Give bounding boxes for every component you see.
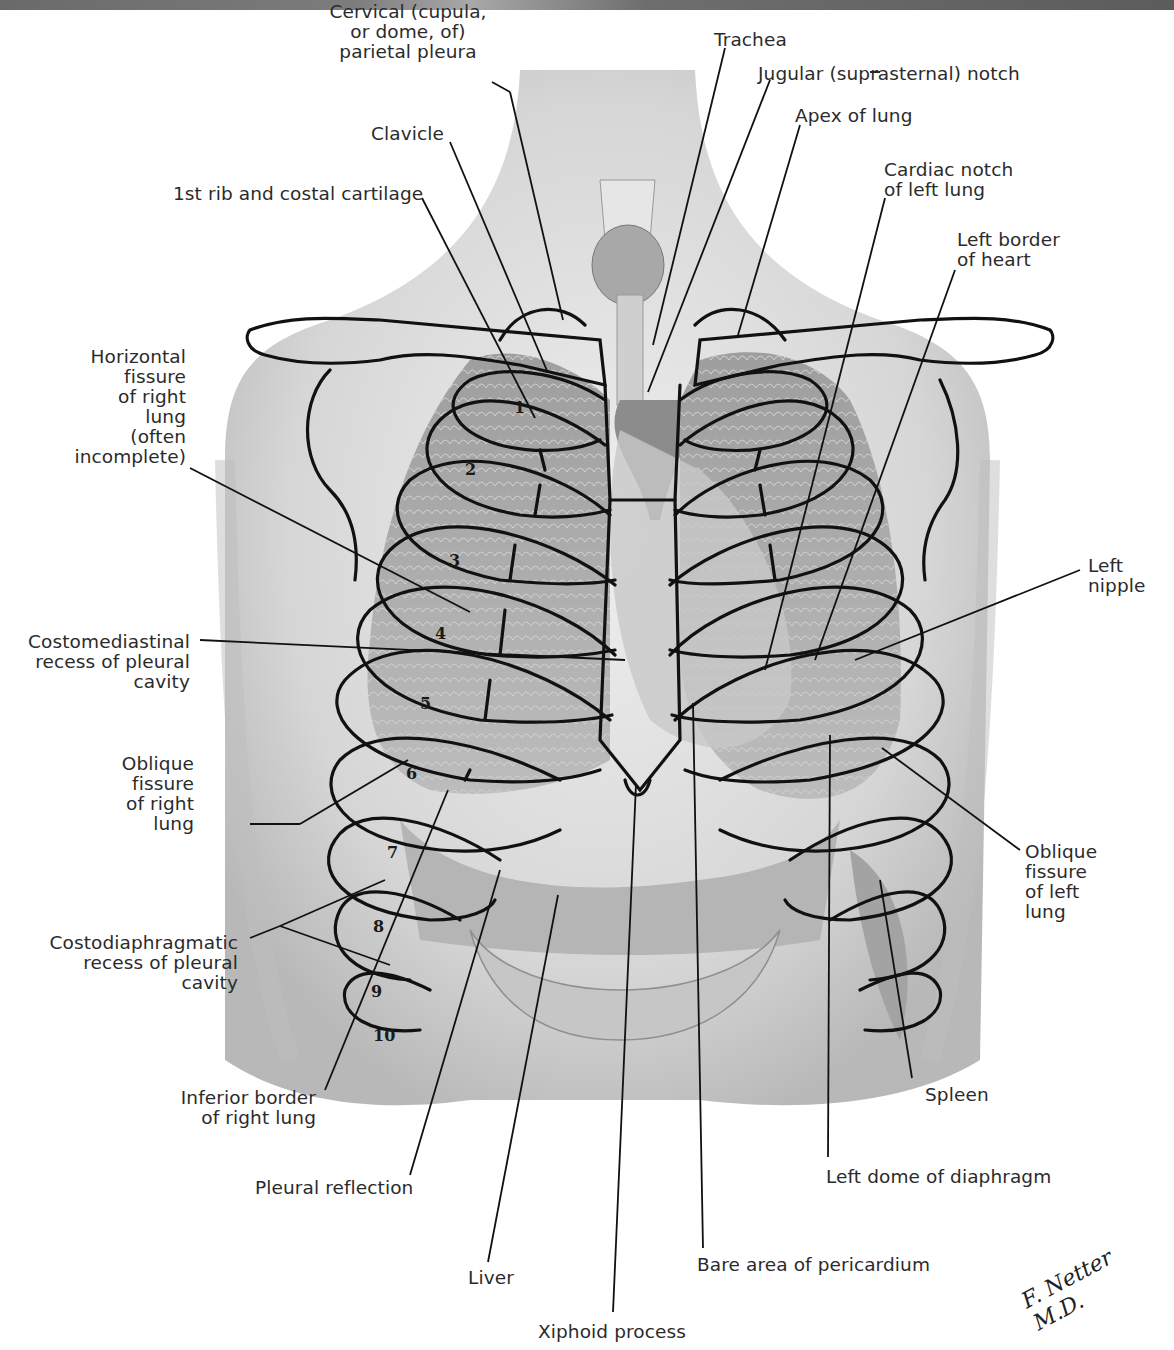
rib-number-7: 7 [387, 843, 398, 862]
label-cardiac-notch: Cardiac notch of left lung [884, 160, 1013, 200]
label-oblique-fissure-right: Oblique fissure of right lung [90, 754, 194, 834]
label-clavicle: Clavicle [371, 124, 444, 144]
rib-number-4: 4 [435, 624, 446, 643]
label-apex-of-lung: Apex of lung [795, 106, 913, 126]
rib-number-1: 1 [514, 398, 525, 417]
label-left-border-heart: Left border of heart [957, 230, 1060, 270]
label-spleen: Spleen [925, 1085, 989, 1105]
rib-number-3: 3 [449, 551, 460, 570]
label-first-rib: 1st rib and costal cartilage [173, 184, 423, 204]
rib-number-2: 2 [465, 460, 476, 479]
label-left-nipple: Left nipple [1088, 556, 1145, 596]
rib-number-8: 8 [373, 917, 384, 936]
label-pleural-reflection: Pleural reflection [255, 1178, 413, 1198]
label-cervical-pleura: Cervical (cupula, or dome, of) parietal … [318, 2, 498, 62]
rib-number-10: 10 [373, 1026, 395, 1045]
label-liver: Liver [468, 1268, 514, 1288]
label-left-dome-diaphragm: Left dome of diaphragm [826, 1167, 1051, 1187]
label-jugular-notch: Jugular (suprasternal) notch [758, 64, 1020, 84]
label-xiphoid-process: Xiphoid process [538, 1322, 686, 1342]
label-bare-area-pericardium: Bare area of pericardium [697, 1255, 930, 1275]
label-horizontal-fissure: Horizontal fissure of right lung (often … [40, 347, 186, 467]
rib-number-5: 5 [420, 694, 431, 713]
label-costodiaphragmatic-recess: Costodiaphragmatic recess of pleural cav… [10, 933, 238, 993]
label-oblique-fissure-left: Oblique fissure of left lung [1025, 842, 1097, 922]
label-inferior-border-right-lung: Inferior border of right lung [150, 1088, 316, 1128]
rib-number-9: 9 [371, 982, 382, 1001]
label-costomediastinal-recess: Costomediastinal recess of pleural cavit… [0, 632, 190, 692]
rib-number-6: 6 [406, 764, 417, 783]
label-trachea: Trachea [714, 30, 787, 50]
